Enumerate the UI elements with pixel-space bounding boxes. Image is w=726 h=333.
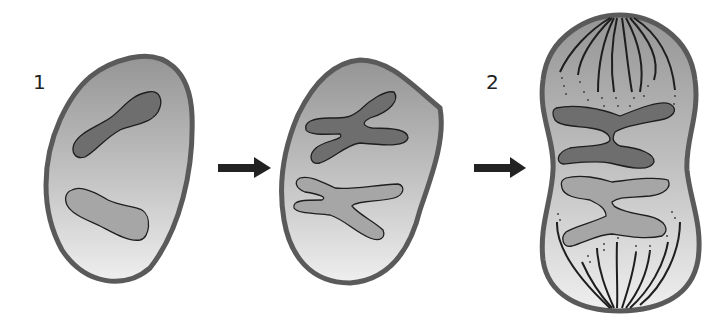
arrow-right-icon: [474, 157, 526, 178]
cell-2: [542, 15, 699, 311]
cell-1: [46, 56, 192, 281]
cell-membrane: [46, 56, 192, 281]
cell-membrane: [282, 60, 442, 283]
cell-middle: [282, 60, 442, 283]
arrow-right-icon: [218, 157, 271, 178]
cell-division-diagram: [0, 0, 726, 333]
